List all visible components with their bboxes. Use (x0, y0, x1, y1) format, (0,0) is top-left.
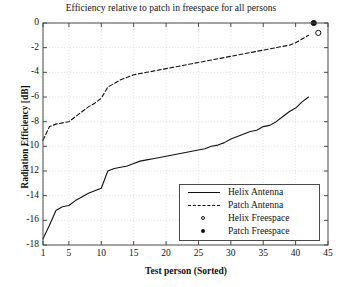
legend-sample-dashed-line (186, 199, 222, 212)
legend-item-helix-antenna: Helix Antenna (180, 186, 321, 199)
legend-item-patch-freespace: Patch Freespace (180, 225, 321, 238)
legend-item-helix-freespace: Helix Freespace (180, 212, 321, 225)
chart-figure: Efficiency relative to patch in freespac… (0, 0, 342, 287)
legend-label: Patch Freespace (228, 225, 289, 238)
legend-label: Helix Antenna (228, 186, 283, 199)
legend-sample-solid-line (186, 186, 222, 199)
marker-helix-freespace (316, 30, 321, 35)
legend-label: Helix Freespace (228, 212, 289, 225)
legend-sample-filled-circle-icon (186, 225, 222, 238)
chart-legend: Helix Antenna Patch Antenna Helix Freesp… (179, 184, 320, 241)
plot-canvas (0, 0, 342, 287)
legend-label: Patch Antenna (228, 199, 283, 212)
series-line-patch-antenna (43, 35, 309, 140)
legend-item-patch-antenna: Patch Antenna (180, 199, 321, 212)
legend-sample-open-circle-icon (186, 212, 222, 225)
